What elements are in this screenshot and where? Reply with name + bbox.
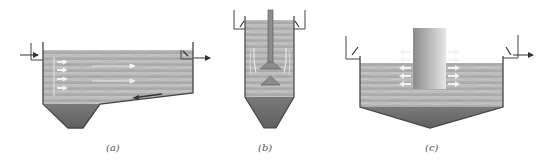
tank-b-left-overflow-arrow [240, 21, 244, 27]
tank-b-central-pipe [268, 10, 273, 63]
panel-a-label: (a) [106, 142, 120, 153]
panel-c-label: (c) [425, 142, 439, 153]
tank-c-central-cylinder [413, 28, 446, 89]
tank-c-sludge-bottom [360, 107, 503, 128]
panel-a-horizontal-tank: (a) [20, 42, 210, 153]
tank-c-left-overflow-arrow [352, 47, 358, 55]
tank-b-sludge-cone [245, 97, 294, 128]
tank-a-inlet-channel [31, 43, 43, 60]
tank-b-right-weir [294, 10, 305, 29]
panel-c-radial-tank: (c) [346, 28, 533, 153]
panel-b-vertical-tank: (b) [234, 10, 305, 153]
sedimentation-tanks-diagram: (a) (b) [0, 0, 551, 164]
panel-b-label: (b) [258, 142, 272, 153]
tank-b-left-weir [234, 10, 245, 29]
tank-b-right-overflow-arrow [295, 21, 299, 27]
tank-c-right-overflow-arrow [506, 47, 511, 55]
